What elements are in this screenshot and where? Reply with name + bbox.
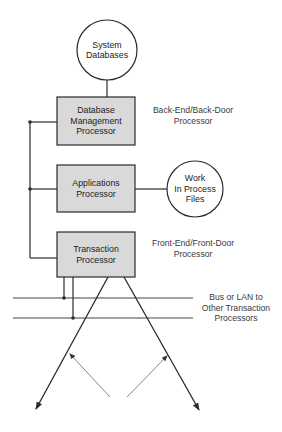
junction-dot [28,120,32,124]
front-end-annotation: Front-End/Front-Door Processor [140,238,246,259]
output-arrow-left [36,277,108,409]
junction-dot [62,296,66,300]
wip-files-label: Work In Process Files [167,161,223,217]
output-arrow-right [124,277,199,410]
junction-dot [71,316,75,320]
applications-label: Applications Processor [57,165,135,212]
back-end-annotation: Back-End/Back-Door Processor [140,105,246,126]
input-arrow-left [70,354,110,397]
db-mgmt-label: Database Management Processor [57,97,135,145]
input-arrow-right [127,356,167,397]
diagram-canvas [0,0,282,432]
junction-dot [28,187,32,191]
bus-annotation: Bus or LAN to Other Transaction Processo… [196,292,276,324]
transaction-label: Transaction Processor [57,232,135,277]
system-databases-label: System Databases [77,20,137,80]
